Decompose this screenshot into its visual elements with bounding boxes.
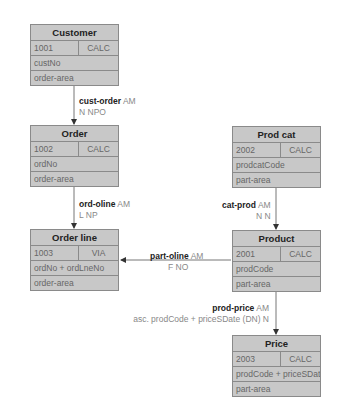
set-label-cat-prod: cat-prod AMN N — [222, 200, 271, 222]
record-id: 2001 — [233, 247, 281, 261]
record-order[interactable]: Order 1002CALC ordNo order-area — [30, 125, 119, 187]
record-customer[interactable]: Customer 1001CALC custNo order-area — [30, 24, 119, 86]
area: order-area — [31, 276, 118, 290]
area: part-area — [233, 277, 320, 291]
set-label-part-oline: part-oline AMF NO — [150, 251, 203, 273]
area: order-area — [31, 71, 118, 85]
record-product[interactable]: Product 2001CALC prodCode part-area — [232, 230, 321, 292]
record-name: Customer — [31, 25, 118, 41]
set-label-prod-price: prod-price AMasc. prodCode + priceSDate … — [133, 303, 269, 325]
record-id: 1001 — [31, 41, 79, 55]
location-mode: CALC — [281, 352, 320, 366]
location-mode: CALC — [79, 142, 118, 156]
location-mode: VIA — [79, 246, 118, 260]
calc-key: prodCode + priceSDate — [233, 367, 320, 382]
record-name: Prod cat — [233, 127, 320, 143]
record-prod-cat[interactable]: Prod cat 2002CALC prodcatCode part-area — [232, 126, 321, 188]
record-name: Product — [233, 231, 320, 247]
location-mode: CALC — [281, 143, 320, 157]
set-label-ord-oline: ord-oline AML NP — [79, 199, 130, 221]
area: part-area — [233, 382, 320, 396]
location-mode: CALC — [281, 247, 320, 261]
record-price[interactable]: Price 2003CALC prodCode + priceSDate par… — [232, 335, 321, 397]
record-id: 1002 — [31, 142, 79, 156]
calc-key: prodcatCode — [233, 158, 320, 173]
record-id: 2003 — [233, 352, 281, 366]
location-mode: CALC — [79, 41, 118, 55]
record-name: Order line — [31, 230, 118, 246]
record-id: 2002 — [233, 143, 281, 157]
set-label-cust-order: cust-order AMN NPO — [79, 96, 136, 118]
record-name: Order — [31, 126, 118, 142]
area: part-area — [233, 173, 320, 187]
area: order-area — [31, 172, 118, 186]
record-name: Price — [233, 336, 320, 352]
calc-key: ordNo — [31, 157, 118, 172]
calc-key: ordNo + ordLneNo — [31, 261, 118, 276]
calc-key: custNo — [31, 56, 118, 71]
record-id: 1003 — [31, 246, 79, 260]
record-order-line[interactable]: Order line 1003VIA ordNo + ordLneNo orde… — [30, 229, 119, 291]
calc-key: prodCode — [233, 262, 320, 277]
